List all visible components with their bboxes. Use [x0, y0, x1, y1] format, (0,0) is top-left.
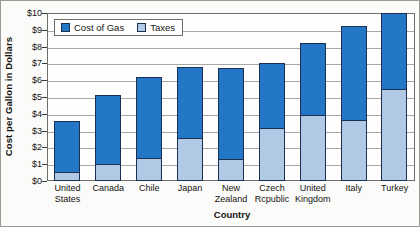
bar-group[interactable] — [259, 13, 285, 181]
bar-segment-taxes[interactable] — [382, 89, 406, 180]
bar-stack[interactable] — [259, 63, 285, 181]
bars-layer — [47, 13, 415, 181]
bar-segment-taxes[interactable] — [178, 138, 202, 180]
y-axis-tick-label: $5 — [12, 92, 42, 102]
bar-stack[interactable] — [300, 43, 326, 181]
y-axis-tick-label: $9 — [12, 25, 42, 35]
bar-segment-taxes[interactable] — [342, 120, 366, 180]
y-axis-tick-label: $1 — [12, 159, 42, 169]
legend-swatch-taxes — [137, 23, 146, 32]
bar-group[interactable] — [136, 13, 162, 181]
y-axis-tick-mark — [42, 97, 47, 98]
y-axis-tick-label: $6 — [12, 75, 42, 85]
bar-stack[interactable] — [54, 121, 80, 181]
chart-legend: Cost of Gas Taxes — [55, 20, 182, 35]
bar-segment-cost-of-gas[interactable] — [342, 27, 366, 120]
y-axis-tick-mark — [42, 30, 47, 31]
bar-segment-taxes[interactable] — [260, 128, 284, 180]
bar-group[interactable] — [300, 13, 326, 181]
stacked-bar-chart: Cost per Gallon in Dollars $10$9$8$7$6$5… — [0, 0, 420, 227]
bar-group[interactable] — [95, 13, 121, 181]
bar-segment-cost-of-gas[interactable] — [55, 122, 79, 172]
bar-segment-taxes[interactable] — [301, 115, 325, 180]
bar-segment-cost-of-gas[interactable] — [219, 69, 243, 160]
bar-segment-taxes[interactable] — [219, 159, 243, 180]
y-axis-tick-mark — [42, 131, 47, 132]
y-axis-tick-mark — [42, 63, 47, 64]
y-axis-tick-mark — [42, 181, 47, 182]
x-axis-category-label: Turkey — [374, 183, 415, 209]
y-axis-tick-mark — [42, 114, 47, 115]
bar-segment-cost-of-gas[interactable] — [178, 68, 202, 138]
y-axis-tick-mark — [42, 164, 47, 165]
bar-segment-cost-of-gas[interactable] — [382, 14, 406, 89]
y-axis-tick-mark — [42, 13, 47, 14]
bar-segment-cost-of-gas[interactable] — [260, 64, 284, 128]
bar-group[interactable] — [381, 13, 407, 181]
bar-segment-taxes[interactable] — [137, 158, 161, 180]
bar-segment-taxes[interactable] — [55, 172, 79, 180]
y-axis-tick-label: $4 — [12, 109, 42, 119]
legend-label-cost-of-gas: Cost of Gas — [74, 22, 124, 33]
y-axis-tick-mark — [42, 147, 47, 148]
bar-stack[interactable] — [218, 68, 244, 181]
bar-segment-cost-of-gas[interactable] — [96, 96, 120, 164]
x-axis-category-label: Chile — [129, 183, 170, 209]
bar-stack[interactable] — [341, 26, 367, 181]
y-axis-tick-label: $10 — [12, 8, 42, 18]
bar-stack[interactable] — [136, 77, 162, 181]
y-axis-tick-label: $2 — [12, 142, 42, 152]
bar-stack[interactable] — [381, 13, 407, 181]
x-axis-category-label: UnitedKingdom — [292, 183, 333, 209]
x-axis-title: Country — [49, 209, 415, 220]
y-axis-tick-label: $8 — [12, 42, 42, 52]
bar-stack[interactable] — [95, 95, 121, 181]
x-axis-category-label: UnitedStates — [47, 183, 88, 209]
legend-label-taxes: Taxes — [150, 22, 175, 33]
y-axis-tick-mark — [42, 47, 47, 48]
y-axis-tick-label: $0 — [12, 176, 42, 186]
y-axis-tick-label: $3 — [12, 126, 42, 136]
bar-stack[interactable] — [177, 67, 203, 181]
legend-entry-cost-of-gas: Cost of Gas — [61, 22, 124, 33]
legend-entry-taxes: Taxes — [137, 22, 175, 33]
y-axis-tick-label: $7 — [12, 58, 42, 68]
legend-swatch-cost-of-gas — [61, 23, 70, 32]
bar-group[interactable] — [177, 13, 203, 181]
bar-segment-cost-of-gas[interactable] — [137, 78, 161, 158]
bar-group[interactable] — [218, 13, 244, 181]
bar-group[interactable] — [54, 13, 80, 181]
x-axis-category-label: NewZealand — [211, 183, 252, 209]
bar-segment-taxes[interactable] — [96, 164, 120, 180]
x-axis-category-label: Japan — [170, 183, 211, 209]
bar-segment-cost-of-gas[interactable] — [301, 44, 325, 115]
x-axis-category-label: Italy — [333, 183, 374, 209]
y-axis-tick-mark — [42, 80, 47, 81]
x-axis-category-label: Canada — [88, 183, 129, 209]
x-axis-category-label: CzechRcpublic — [251, 183, 292, 209]
x-axis-category-labels: UnitedStatesCanadaChileJapanNewZealandCz… — [47, 183, 415, 209]
bar-group[interactable] — [341, 13, 367, 181]
